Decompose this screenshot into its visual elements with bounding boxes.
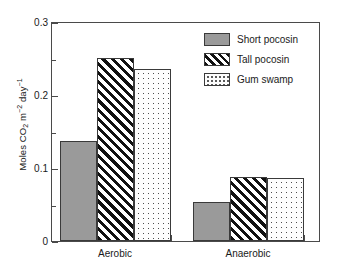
legend-item-gum-swamp: Gum swamp bbox=[204, 73, 298, 86]
legend-label-gum-swamp: Gum swamp bbox=[237, 75, 293, 85]
x-tick-aerobic-end bbox=[171, 235, 172, 241]
y-tick-label-0.2: 0.2 bbox=[34, 91, 48, 101]
y-minor-tick-0.05 bbox=[52, 206, 56, 207]
y-tick-0.3: 0.3 bbox=[52, 23, 58, 24]
bar-aerobic-gum-swamp bbox=[134, 69, 171, 241]
y-tick-label-0: 0 bbox=[42, 237, 48, 247]
legend-label-short-pocosin: Short pocosin bbox=[237, 35, 298, 45]
y-axis-title-sub-2: 2 bbox=[22, 124, 29, 128]
x-axis-label-aerobic: Aerobic bbox=[98, 248, 132, 259]
y-axis-title-mid2: day bbox=[17, 86, 28, 104]
y-tick-label-0.3: 0.3 bbox=[34, 18, 48, 28]
x-tick-anaerobic-end bbox=[304, 235, 305, 241]
y-tick-0.2: 0.2 bbox=[52, 96, 58, 97]
y-minor-tick-0.25 bbox=[52, 60, 56, 61]
bar-anaerobic-short-pocosin bbox=[193, 202, 230, 241]
legend-swatch-dots-icon bbox=[204, 73, 230, 86]
legend-swatch-solid-gray-icon bbox=[204, 33, 230, 46]
bar-anaerobic-gum-swamp bbox=[267, 178, 304, 241]
y-axis-title-prefix: Moles CO bbox=[17, 128, 28, 171]
legend-label-tall-pocosin: Tall pocosin bbox=[237, 55, 289, 65]
legend-swatch-hatch-icon bbox=[204, 53, 230, 66]
y-tick-label-0.1: 0.1 bbox=[34, 164, 48, 174]
legend-item-short-pocosin: Short pocosin bbox=[204, 33, 298, 46]
bar-chart-figure: Moles CO2 m−2 day−1 0 0.1 0.2 0.3 bbox=[0, 0, 338, 276]
y-axis-title-mid: m bbox=[17, 113, 28, 124]
x-axis-label-anaerobic: Anaerobic bbox=[225, 248, 270, 259]
y-axis-title-sup-minus2: −2 bbox=[16, 105, 23, 113]
y-axis-title-sup-minus1: −1 bbox=[16, 78, 23, 86]
legend-item-tall-pocosin: Tall pocosin bbox=[204, 53, 298, 66]
plot-area: 0 0.1 0.2 0.3 Short pocosin bbox=[51, 22, 320, 242]
y-axis-title: Moles CO2 m−2 day−1 bbox=[16, 40, 29, 210]
y-tick-0.1: 0.1 bbox=[52, 169, 58, 170]
y-tick-0: 0 bbox=[52, 242, 58, 243]
bar-aerobic-tall-pocosin bbox=[97, 58, 134, 241]
bar-aerobic-short-pocosin bbox=[60, 141, 97, 241]
bar-anaerobic-tall-pocosin bbox=[230, 177, 267, 241]
legend: Short pocosin Tall pocosin Gum swamp bbox=[204, 33, 298, 86]
y-minor-tick-0.15 bbox=[52, 133, 56, 134]
